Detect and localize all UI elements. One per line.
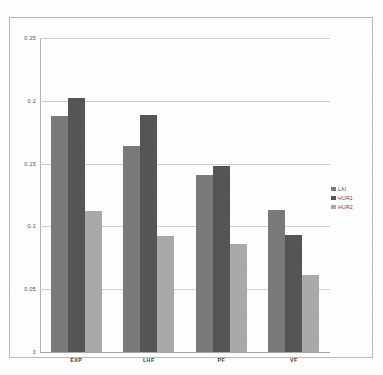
bar [157,236,174,352]
x-axis-tick-label: VF [290,357,298,363]
legend-item: HUR2 [331,204,353,210]
bar [196,175,213,352]
y-axis-tick-label: 0.15 [24,161,36,167]
chart-figure: 00.050.10.150.20.25 EXPLHFPFVF LAIHUR1HU… [0,0,383,375]
legend-item: HUR1 [331,195,353,201]
bar [285,235,302,352]
plot-area [40,38,330,352]
bar [85,211,102,352]
bar [51,116,68,352]
bar [302,275,319,352]
bar-group [196,38,247,352]
y-axis-tick-label: 0.2 [28,98,36,104]
bar-group [123,38,174,352]
legend-label: HUR1 [338,195,353,201]
x-axis-tick-label: LHF [143,357,155,363]
bar [140,115,157,352]
bar [230,244,247,352]
chart-legend: LAIHUR1HUR2 [331,186,353,210]
y-axis-tick-label: 0.1 [28,223,36,229]
legend-swatch-icon [331,205,336,210]
legend-swatch-icon [331,187,336,192]
legend-label: HUR2 [338,204,353,210]
x-axis-tick-label: PF [217,357,225,363]
legend-item: LAI [331,186,353,192]
legend-label: LAI [338,186,346,192]
y-axis-tick-label: 0.05 [24,286,36,292]
y-axis-tick-labels: 00.050.10.150.20.25 [0,0,36,375]
bar [268,210,285,352]
bar [68,98,85,352]
legend-swatch-icon [331,196,336,201]
bar-group [268,38,319,352]
bar-group [51,38,102,352]
bar [213,166,230,352]
x-axis-tick-label: EXP [70,357,82,363]
y-axis-tick-label: 0.25 [24,35,36,41]
y-axis-tick-label: 0 [33,349,36,355]
bar [123,146,140,352]
gridline [40,352,330,353]
